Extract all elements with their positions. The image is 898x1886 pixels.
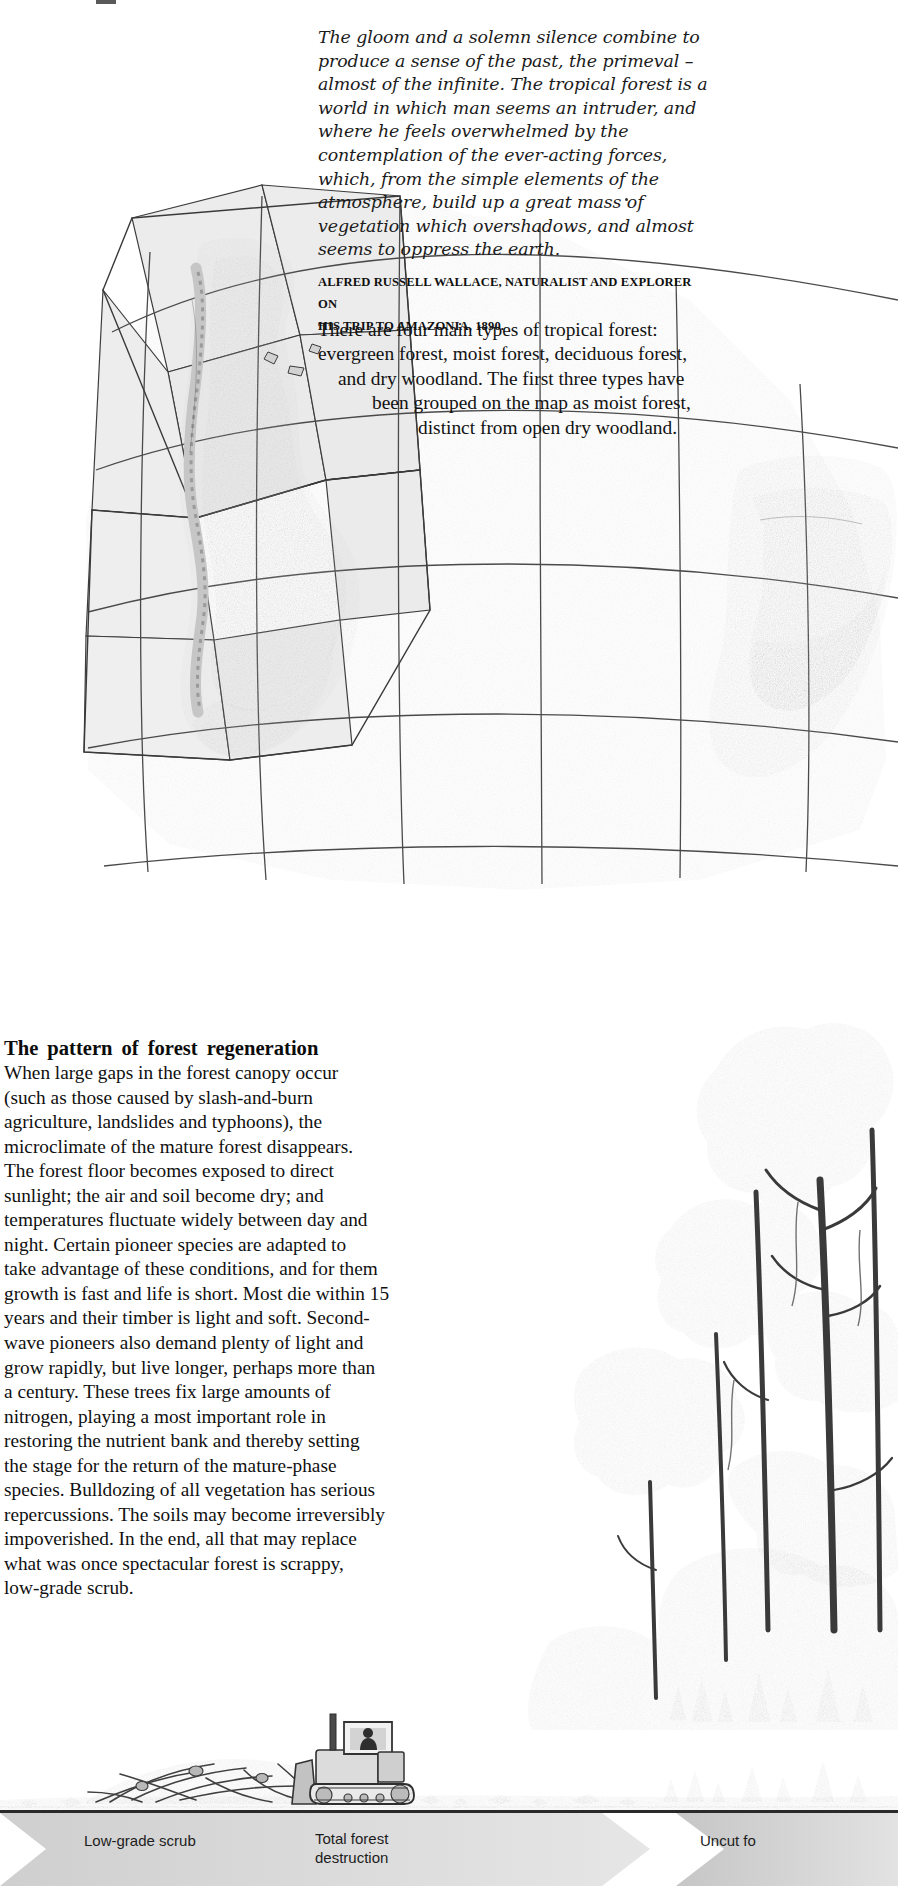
- forest-types-paragraph: There are four main types of tropical fo…: [300, 318, 720, 440]
- body-line: low-grade scrub.: [4, 1576, 408, 1601]
- body-line: repercussions. The soils may become irre…: [4, 1503, 408, 1528]
- quote-attribution-line1: ALFRED RUSSELL WALLACE, NATURALIST AND E…: [318, 275, 692, 311]
- forest-types-line-2: evergreen forest, moist forest, deciduou…: [318, 342, 720, 366]
- band-label-total-forest-destruction: Total forest destruction: [315, 1829, 388, 1867]
- body-line: growth is fast and life is short. Most d…: [4, 1282, 408, 1307]
- body-line: microclimate of the mature forest disapp…: [4, 1135, 408, 1160]
- article-body: When large gaps in the forest canopy occ…: [4, 1061, 408, 1601]
- heading-word-2: pattern: [47, 1037, 112, 1059]
- forest-types-line-4: been grouped on the map as moist forest,: [372, 391, 720, 415]
- body-line: nitrogen, playing a most important role …: [4, 1405, 408, 1430]
- forest-gradient-caption-band: Low-grade scrub Total forest destruction…: [0, 1810, 898, 1886]
- band-label-low-grade-scrub: Low-grade scrub: [84, 1831, 196, 1850]
- forest-types-line-5: distinct from open dry woodland.: [418, 416, 720, 440]
- forest-regeneration-article: Thepatternofforestregeneration When larg…: [4, 1037, 408, 1601]
- body-line: species. Bulldozing of all vegetation ha…: [4, 1478, 408, 1503]
- quote-text: The gloom and a solemn silence combine t…: [318, 26, 710, 262]
- body-line: The forest floor becomes exposed to dire…: [4, 1159, 408, 1184]
- heading-word-4: forest: [148, 1037, 198, 1059]
- band-label-uncut-forest: Uncut fo: [700, 1831, 756, 1850]
- body-line: what was once spectacular forest is scra…: [4, 1552, 408, 1577]
- body-line: restoring the nutrient bank and thereby …: [4, 1429, 408, 1454]
- page-root: The gloom and a solemn silence combine t…: [0, 0, 898, 1886]
- wallace-quote-block: The gloom and a solemn silence combine t…: [318, 26, 710, 337]
- body-line: When large gaps in the forest canopy occ…: [4, 1061, 408, 1086]
- rainforest-trees-illustration: [520, 930, 898, 1810]
- heading-word-3: of: [122, 1037, 139, 1059]
- heading-word-5: regeneration: [207, 1037, 319, 1059]
- heading-word-1: The: [4, 1037, 38, 1059]
- body-line: a century. These trees fix large amounts…: [4, 1380, 408, 1405]
- body-line: agriculture, landslides and typhoons), t…: [4, 1110, 408, 1135]
- forest-types-line-1: There are four main types of tropical fo…: [318, 318, 720, 342]
- band-label-total-line1: Total forest: [315, 1830, 388, 1847]
- body-line: sunlight; the air and soil become dry; a…: [4, 1184, 408, 1209]
- body-line: night. Certain pioneer species are adapt…: [4, 1233, 408, 1258]
- band-label-total-line2: destruction: [315, 1849, 388, 1866]
- article-heading: Thepatternofforestregeneration: [4, 1037, 408, 1060]
- body-line: years and their timber is light and soft…: [4, 1306, 408, 1331]
- body-line: take advantage of these conditions, and …: [4, 1257, 408, 1282]
- body-line: temperatures fluctuate widely between da…: [4, 1208, 408, 1233]
- quote-period-dot: [625, 198, 628, 201]
- registration-mark: [96, 0, 116, 4]
- body-line: wave pioneers also demand plenty of ligh…: [4, 1331, 408, 1356]
- forest-types-line-3: and dry woodland. The first three types …: [338, 367, 720, 391]
- body-line: grow rapidly, but live longer, perhaps m…: [4, 1356, 408, 1381]
- body-line: the stage for the return of the mature-p…: [4, 1454, 408, 1479]
- body-line: (such as those caused by slash-and-burn: [4, 1086, 408, 1111]
- body-line: impoverished. In the end, all that may r…: [4, 1527, 408, 1552]
